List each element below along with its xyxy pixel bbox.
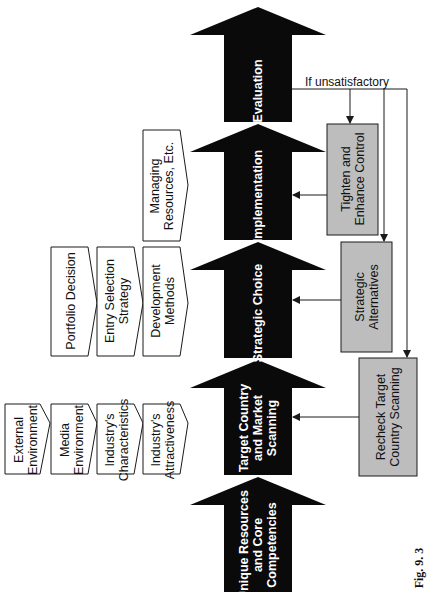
label-strategic-alternatives: Strategic Alternatives	[343, 245, 391, 350]
label-managing-resources: Managing Resources, Etc.	[142, 134, 182, 238]
label-target-country: Target Country and Market Scanning	[224, 378, 292, 478]
label-media-environment: Media Environment	[53, 407, 91, 473]
label-strategic-choice: Strategic Choice	[227, 263, 289, 363]
label-evaluation: Evaluation	[228, 41, 288, 141]
label-development-methods: Development Methods	[144, 251, 182, 351]
label-if-unsatisfactory: If unsatisfactory	[305, 75, 389, 89]
label-entry-selection-strategy: Entry Selection Strategy	[98, 251, 136, 351]
figure-caption: Fig. 9. 3	[412, 538, 428, 598]
label-unique-resources: Unique Resources and Core Competencies	[224, 490, 292, 600]
label-industry-characteristics: Industry's Characteristics	[97, 406, 137, 474]
label-portfolio-decision: Portfolio Decision	[52, 251, 90, 351]
label-implementation: Implementation	[228, 141, 288, 251]
label-recheck-target: Recheck Target Country Scanning	[362, 362, 414, 472]
label-industry-attractiveness: Industry's Attractiveness	[143, 406, 183, 474]
label-tighten-control: Tighten and Enhance Control	[329, 127, 377, 232]
label-external-environment: External Environment	[7, 407, 45, 473]
